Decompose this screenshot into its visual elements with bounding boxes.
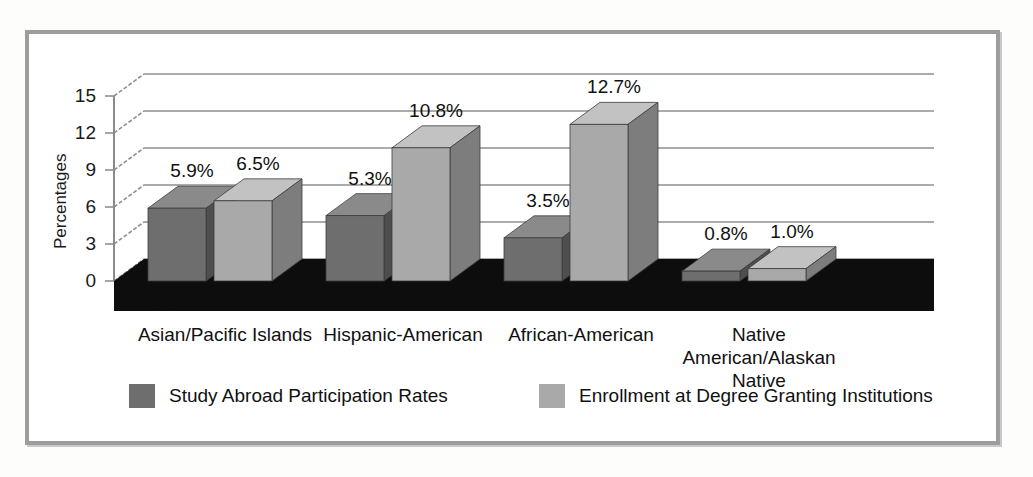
category-label-line: American/Alaskan — [649, 346, 869, 369]
bar-value-label: 1.0% — [742, 221, 842, 243]
legend-label: Enrollment at Degree Granting Institutio… — [579, 385, 933, 407]
bar-value-label: 12.7% — [564, 76, 664, 98]
y-axis-tick-label: 12 — [56, 123, 96, 142]
legend-swatch-icon — [129, 384, 155, 408]
y-axis-title: Percentages — [51, 154, 71, 249]
legend-swatch-icon — [539, 384, 565, 408]
legend-label: Study Abroad Participation Rates — [169, 385, 448, 407]
figure-frame: 03691215Percentages5.9%6.5%5.3%10.8%3.5%… — [25, 30, 1000, 445]
bar[interactable] — [392, 126, 480, 281]
y-axis-tick-label: 15 — [56, 86, 96, 105]
bar-chart: 03691215Percentages5.9%6.5%5.3%10.8%3.5%… — [29, 34, 996, 441]
category-label-line: Native — [649, 323, 869, 346]
bar-value-label: 3.5% — [498, 190, 598, 212]
legend-item[interactable]: Enrollment at Degree Granting Institutio… — [539, 384, 933, 408]
bar-value-label: 5.3% — [320, 168, 420, 190]
bar-value-label: 10.8% — [386, 100, 486, 122]
bar[interactable] — [214, 179, 302, 281]
bar-value-label: 6.5% — [208, 153, 308, 175]
category-label-native-american-alaskan-native: NativeAmerican/AlaskanNative — [649, 323, 869, 392]
y-axis-tick-label: 0 — [56, 271, 96, 290]
legend-item[interactable]: Study Abroad Participation Rates — [129, 384, 448, 408]
